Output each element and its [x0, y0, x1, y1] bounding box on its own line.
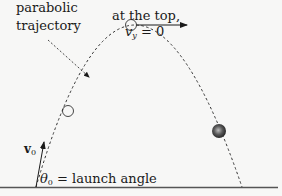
vy-equation: vy = 0: [125, 25, 164, 43]
launch-angle-text: = launch angle: [53, 171, 157, 186]
v0-symbol: v: [24, 142, 31, 156]
apex-label: at the top,: [112, 9, 180, 23]
trajectory-pointer-arrow: [48, 40, 89, 77]
vy-value: = 0: [137, 24, 164, 39]
position-circle-ascending: [63, 106, 74, 117]
v0-label: v0: [24, 142, 36, 160]
ball: [212, 124, 226, 138]
launch-angle-label: θ0 = launch angle: [40, 172, 157, 190]
theta-symbol: θ: [40, 171, 48, 186]
projectile-diagram: parabolic trajectory at the top, vy = 0 …: [0, 0, 282, 196]
v0-subscript: 0: [31, 148, 36, 157]
trajectory-label-line1: parabolic: [16, 1, 78, 15]
trajectory-label-line2: trajectory: [16, 19, 81, 33]
